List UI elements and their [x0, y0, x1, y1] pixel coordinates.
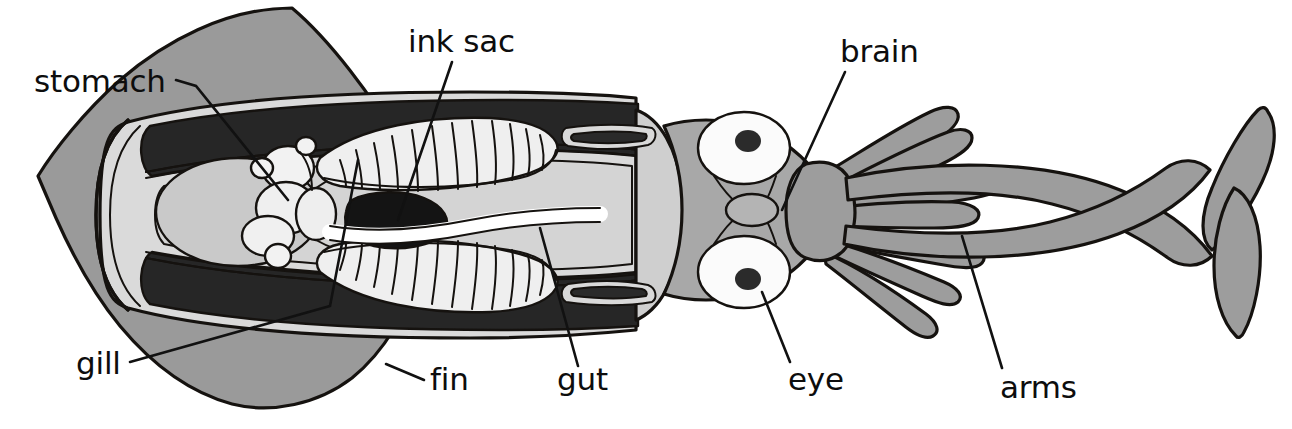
pupil-upper-icon: [735, 130, 761, 152]
label-gut: gut: [557, 361, 608, 397]
funnel-slit-lower: [562, 281, 656, 305]
pupil-lower-icon: [735, 268, 761, 290]
leader-fin: [386, 364, 424, 380]
label-arms: arms: [1000, 369, 1077, 405]
label-gill: gill: [76, 345, 121, 381]
funnel-slit-upper: [562, 125, 656, 149]
label-fin: fin: [430, 361, 469, 397]
label-ink-sac: ink sac: [408, 23, 515, 59]
arms-group: [786, 107, 1010, 337]
leader-eye: [762, 292, 790, 362]
label-stomach: stomach: [34, 63, 166, 99]
squid-anatomy-figure: stomach ink sac brain gill fin gut eye a…: [0, 0, 1292, 429]
label-eye: eye: [788, 361, 844, 397]
brain-organ: [726, 194, 778, 226]
label-brain: brain: [840, 33, 919, 69]
squid-diagram-svg: stomach ink sac brain gill fin gut eye a…: [0, 0, 1292, 429]
